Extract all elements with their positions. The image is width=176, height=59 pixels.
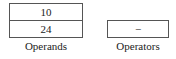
operand-cell: 24 xyxy=(10,20,82,37)
operators-label: Operators xyxy=(107,40,169,52)
operator-cell: − xyxy=(135,23,141,35)
operator-stack: − xyxy=(107,20,169,38)
operands-label: Operands xyxy=(9,40,83,52)
operand-stack: 10 24 xyxy=(9,3,83,38)
operand-cell: 10 xyxy=(10,4,82,20)
